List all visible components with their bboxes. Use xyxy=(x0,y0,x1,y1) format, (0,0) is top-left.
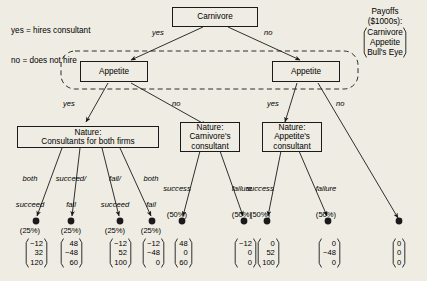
node-nature-appetite-line1: Nature: xyxy=(279,123,306,132)
node-nature-appetite-line3: consultant xyxy=(273,142,310,151)
payoff-vector-9: 000 xyxy=(378,238,420,268)
branch-label-carnivore-success-line1: success xyxy=(155,185,199,194)
branch-label-appetite-failure-line1: failure xyxy=(305,185,347,194)
bracket-left-icon xyxy=(363,27,367,58)
bracket-left-icon xyxy=(318,238,322,268)
branch-label-appetite-failure-prob: (50%) xyxy=(305,211,347,220)
payoff-values: 0−480 xyxy=(322,239,337,268)
branch-label-root-no: no xyxy=(264,29,272,38)
payoff-value: −48 xyxy=(147,248,160,258)
payoff-legend-vector: Carnivore Appetite Bull's Eye xyxy=(345,27,425,58)
payoff-value: 60 xyxy=(179,258,187,268)
bracket-left-icon xyxy=(392,238,396,268)
payoff-vector-8: 0−480 xyxy=(307,238,352,268)
node-appetite-left-label: Appetite xyxy=(99,67,129,76)
bracket-right-icon xyxy=(337,238,341,268)
bracket-left-icon xyxy=(257,238,261,268)
node-nature-appetite-line2: Appetite's xyxy=(274,132,310,141)
bracket-left-icon xyxy=(25,238,29,268)
branch-label-appetite-right-yes: yes xyxy=(267,100,279,109)
payoff-values: 052100 xyxy=(261,239,276,268)
payoff-value: 0 xyxy=(183,248,187,258)
bracket-left-icon xyxy=(234,238,238,268)
bracket-right-icon xyxy=(79,238,83,268)
payoff-values: −1232120 xyxy=(29,239,44,268)
branch-label-appetite-success: success (50%) xyxy=(238,168,282,237)
payoff-legend-player-1: Appetite xyxy=(370,38,400,48)
payoff-value: −48 xyxy=(65,248,78,258)
payoff-value: 52 xyxy=(118,248,126,258)
branch-label-appetite-success-prob: (50%) xyxy=(238,211,282,220)
bracket-left-icon xyxy=(109,238,113,268)
branch-label-nature-both-2-line2: fail xyxy=(49,201,93,210)
branch-label-carnivore-success: success (50%) xyxy=(155,168,199,237)
bracket-right-icon xyxy=(403,27,407,58)
bracket-left-icon xyxy=(60,238,64,268)
payoff-vector-2: 48−4860 xyxy=(49,238,94,268)
payoff-legend: Payoffs ($1000s): Carnivore Appetite Bul… xyxy=(345,7,425,58)
node-nature-carnivore-line2: Carnivore's xyxy=(189,132,230,141)
node-nature-appetite-consultant[interactable]: Nature: Appetite's consultant xyxy=(262,122,322,152)
branch-label-nature-both-1-line2: succeed xyxy=(8,201,52,210)
node-nature-both-firms[interactable]: Nature: Consultants for both firms xyxy=(17,126,159,148)
payoff-value: −12 xyxy=(147,239,160,249)
node-nature-carnivore-line3: consultant xyxy=(191,142,228,151)
node-carnivore[interactable]: Carnivore xyxy=(172,7,258,27)
notation-legend: yes = hires consultant no = does not hir… xyxy=(11,6,90,86)
payoff-legend-player-0: Carnivore xyxy=(367,28,403,38)
branch-label-appetite-success-line1: success xyxy=(238,185,282,194)
payoff-vector-5: 48060 xyxy=(161,238,206,268)
branch-label-appetite-left-no: no xyxy=(172,100,180,109)
branch-label-appetite-right-no: no xyxy=(336,100,344,109)
payoff-value: 0 xyxy=(332,258,336,268)
payoff-legend-units: ($1000s): xyxy=(345,17,425,27)
payoff-value: 120 xyxy=(30,258,43,268)
payoff-vector-7: 052100 xyxy=(246,238,291,268)
notation-legend-line1: yes = hires consultant xyxy=(11,26,90,36)
branch-label-nature-both-1-line1: both xyxy=(8,175,52,184)
payoff-value: 0 xyxy=(332,239,336,249)
branch-label-nature-both-2-prob: (25%) xyxy=(49,227,93,236)
node-nature-carnivore-consultant[interactable]: Nature: Carnivore's consultant xyxy=(180,122,240,152)
payoff-values: 48−4860 xyxy=(64,239,79,268)
payoff-value: 60 xyxy=(69,258,77,268)
payoff-value: 100 xyxy=(262,258,275,268)
node-nature-carnivore-line1: Nature: xyxy=(197,123,224,132)
payoff-value: 48 xyxy=(179,239,187,249)
bracket-left-icon xyxy=(174,238,178,268)
payoff-value: 100 xyxy=(114,258,127,268)
node-carnivore-label: Carnivore xyxy=(197,12,233,21)
bracket-right-icon xyxy=(44,238,48,268)
payoff-value: 48 xyxy=(69,239,77,249)
bracket-left-icon xyxy=(142,238,146,268)
payoff-value: −48 xyxy=(323,248,336,258)
bracket-right-icon xyxy=(189,238,193,268)
branch-label-nature-both-2-line1: succeed/ xyxy=(49,175,93,184)
node-nature-both-firms-line2: Consultants for both firms xyxy=(41,137,134,146)
payoff-values: −12−480 xyxy=(146,239,161,268)
node-nature-both-firms-line1: Nature: xyxy=(75,128,102,137)
branch-label-root-yes: yes xyxy=(152,29,164,38)
payoff-values: 48060 xyxy=(178,239,188,268)
notation-legend-line2: no = does not hire xyxy=(11,56,90,66)
branch-label-nature-both-1-prob: (25%) xyxy=(8,227,52,236)
game-tree-diagram: yes = hires consultant no = does not hir… xyxy=(0,0,427,281)
payoff-value: 52 xyxy=(266,248,274,258)
payoff-value: 0 xyxy=(397,258,401,268)
branch-label-appetite-left-yes: yes xyxy=(63,100,75,109)
payoff-value: −12 xyxy=(30,239,43,249)
branch-label-carnivore-success-prob: (50%) xyxy=(155,211,199,220)
payoff-value: 32 xyxy=(34,248,42,258)
payoff-value: −12 xyxy=(114,239,127,249)
payoff-values: −1252100 xyxy=(113,239,128,268)
bracket-right-icon xyxy=(402,238,406,268)
payoff-value: 0 xyxy=(397,248,401,258)
payoff-value: 0 xyxy=(156,258,160,268)
payoff-value: 0 xyxy=(271,239,275,249)
node-appetite-right-label: Appetite xyxy=(291,67,321,76)
payoff-value: 0 xyxy=(397,239,401,249)
node-appetite-right[interactable]: Appetite xyxy=(272,61,340,82)
payoff-legend-player-2: Bull's Eye xyxy=(367,48,403,58)
branch-label-appetite-failure: failure (50%) xyxy=(305,168,347,237)
payoff-legend-title: Payoffs xyxy=(345,7,425,17)
